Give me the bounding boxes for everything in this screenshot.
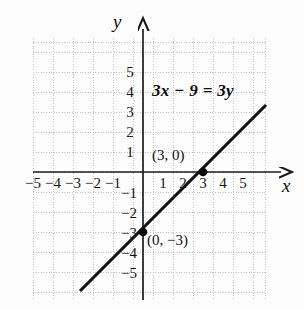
y-tick--1: −1 bbox=[118, 186, 140, 201]
y-tick--2: −2 bbox=[118, 206, 140, 221]
x-tick--5: −5 bbox=[24, 176, 42, 191]
x-tick--3: −3 bbox=[64, 176, 82, 191]
y-tick-4: 4 bbox=[122, 85, 138, 100]
y-axis-label: y bbox=[113, 12, 121, 31]
x-tick--2: −2 bbox=[84, 176, 102, 191]
point-label-0-neg3: (0, −3) bbox=[147, 233, 188, 248]
x-tick-3: 3 bbox=[195, 176, 211, 191]
axis-lines bbox=[33, 29, 281, 300]
y-tick-1: 1 bbox=[122, 145, 138, 160]
coordinate-plane-figure: y x −5 −4 −3 −2 −1 1 2 3 4 5 5 4 3 2 1 −… bbox=[0, 0, 304, 309]
x-tick-1: 1 bbox=[155, 176, 171, 191]
grid-emphasis bbox=[33, 38, 265, 300]
y-tick-3: 3 bbox=[122, 105, 138, 120]
y-tick-5: 5 bbox=[122, 65, 138, 80]
y-tick--4: −4 bbox=[118, 246, 140, 261]
y-tick--3: −3 bbox=[118, 226, 140, 241]
grid-lines bbox=[33, 38, 265, 300]
point-label-3-0: (3, 0) bbox=[152, 148, 185, 163]
y-tick-2: 2 bbox=[122, 125, 138, 140]
y-tick--5: −5 bbox=[118, 266, 140, 281]
x-axis-label: x bbox=[282, 176, 290, 195]
equation-annotation: 3x − 9 = 3y bbox=[152, 82, 234, 99]
x-tick-2: 2 bbox=[175, 176, 191, 191]
x-tick--4: −4 bbox=[44, 176, 62, 191]
plotted-line bbox=[80, 105, 266, 291]
x-tick-5: 5 bbox=[235, 176, 251, 191]
x-tick-4: 4 bbox=[215, 176, 231, 191]
